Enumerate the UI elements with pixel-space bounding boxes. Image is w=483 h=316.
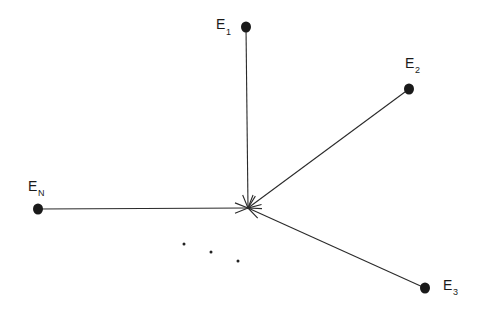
ellipsis-dot bbox=[183, 243, 186, 246]
nodes bbox=[33, 22, 430, 294]
node-label-subscript-e2: 2 bbox=[415, 65, 420, 75]
node-label-e1: E bbox=[216, 16, 225, 32]
arrowheads bbox=[235, 195, 262, 218]
node-label-subscript-e1: 1 bbox=[226, 27, 231, 37]
node-label-subscript-e3: 3 bbox=[453, 287, 458, 297]
node-en bbox=[33, 204, 43, 215]
node-label-subscript-en: N bbox=[38, 188, 45, 198]
edges bbox=[38, 27, 425, 288]
node-label-en: E bbox=[28, 178, 37, 194]
ellipsis-dot bbox=[210, 251, 213, 254]
node-e1 bbox=[241, 22, 251, 33]
node-labels: E1E2ENE3 bbox=[28, 16, 458, 297]
edge-e3-to-center bbox=[248, 208, 425, 288]
convergence-diagram: E1E2ENE3 bbox=[0, 0, 483, 316]
node-e3 bbox=[420, 283, 430, 294]
edge-e1-to-center bbox=[246, 27, 248, 208]
edge-e2-to-center bbox=[248, 89, 409, 208]
ellipsis-dots bbox=[183, 243, 240, 263]
ellipsis-dot bbox=[237, 260, 240, 263]
node-e2 bbox=[404, 84, 414, 95]
node-label-e3: E bbox=[443, 277, 452, 293]
node-label-e2: E bbox=[405, 55, 414, 71]
edge-en-to-center bbox=[38, 208, 248, 209]
